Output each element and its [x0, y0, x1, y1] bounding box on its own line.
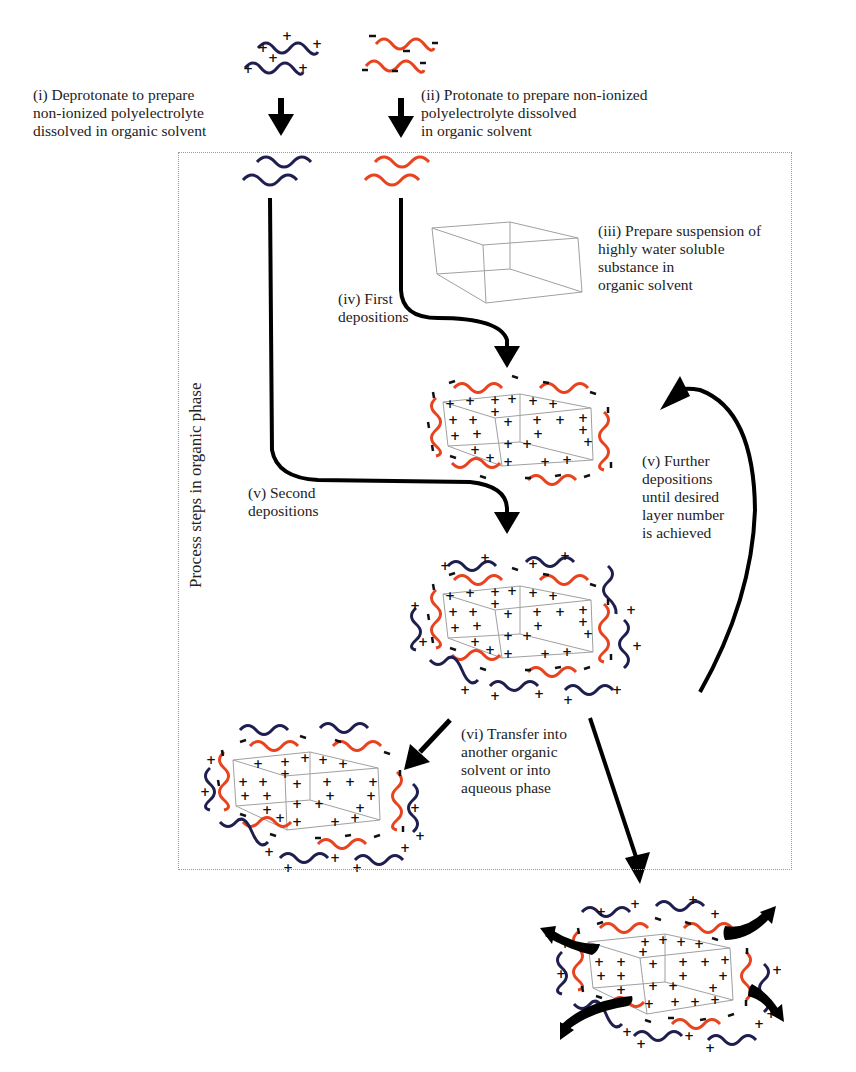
svg-text:+: + — [676, 935, 686, 949]
down-arrow-icon — [388, 98, 414, 138]
svg-text:+: + — [630, 897, 640, 911]
svg-text:+: + — [616, 955, 626, 969]
down-arrow-icon — [268, 98, 294, 136]
svg-text:+: + — [658, 933, 668, 947]
svg-text:+: + — [648, 957, 658, 971]
svg-text:+: + — [772, 963, 782, 977]
svg-text:+: + — [622, 1025, 632, 1039]
svg-text:+: + — [312, 37, 322, 51]
step-v-second-label: (v) Second depositions — [248, 484, 319, 520]
svg-text:+: + — [690, 995, 700, 1009]
svg-text:+: + — [720, 953, 730, 967]
svg-text:+: + — [694, 937, 704, 951]
svg-text:+: + — [644, 997, 654, 1011]
svg-text:+: + — [688, 893, 698, 907]
svg-text:+: + — [243, 62, 253, 76]
svg-text:+: + — [705, 1041, 715, 1055]
svg-text:+: + — [678, 969, 688, 983]
step-iv-label: (iv) First depositions — [338, 290, 409, 326]
svg-text:+: + — [594, 955, 604, 969]
step-ii-label: (ii) Protonate to prepare non-ionized po… — [421, 86, 647, 140]
svg-text:+: + — [678, 955, 688, 969]
svg-text:+: + — [298, 61, 308, 75]
svg-text:+: + — [636, 1037, 646, 1051]
svg-text:+: + — [282, 29, 292, 43]
svg-text:+: + — [596, 905, 606, 919]
phase-box-label: Process steps in organic phase — [186, 382, 206, 588]
svg-text:+: + — [616, 983, 626, 997]
particle-final-released: ++++ + ++++++ ++++ ++++ ++++ ++++ ++++ +… — [540, 893, 784, 1055]
svg-text:+: + — [710, 993, 720, 1007]
svg-text:+: + — [684, 1029, 694, 1043]
svg-text:+: + — [556, 967, 566, 981]
svg-text:+: + — [710, 907, 720, 921]
step-iii-label: (iii) Prepare suspension of highly water… — [598, 222, 761, 294]
step-vi-label: (vi) Transfer into another organic solve… — [461, 725, 567, 797]
svg-text:+: + — [596, 969, 606, 983]
svg-text:+: + — [700, 955, 710, 969]
step-i-label: (i) Deprotonate to prepare non-ionized p… — [33, 86, 206, 140]
release-arrow-icon — [724, 906, 777, 940]
svg-text:+: + — [718, 969, 728, 983]
svg-text:+: + — [668, 979, 678, 993]
svg-text:+: + — [268, 51, 278, 65]
svg-text:+: + — [648, 979, 658, 993]
svg-text:+: + — [616, 969, 626, 983]
svg-text:+: + — [638, 945, 648, 959]
anionic-polyelectrolyte-charged — [366, 39, 434, 72]
svg-text:+: + — [258, 41, 268, 55]
svg-text:+: + — [670, 995, 680, 1009]
step-v-further-label: (v) Further depositions until desired la… — [642, 452, 724, 542]
svg-text:+: + — [754, 1017, 764, 1031]
